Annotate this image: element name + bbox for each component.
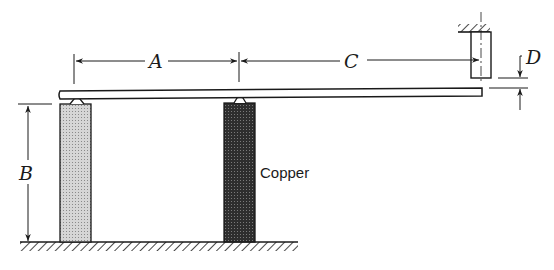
copper-post xyxy=(224,103,255,242)
label-b: B xyxy=(18,162,33,184)
stop-assembly xyxy=(458,12,491,84)
dimension-a: A xyxy=(74,50,239,84)
label-d: D xyxy=(525,46,541,68)
ground xyxy=(20,242,298,251)
diagram-canvas: A C D B Copper xyxy=(0,0,554,270)
label-a: A xyxy=(147,50,163,72)
label-copper: Copper xyxy=(260,164,309,181)
dimension-d: D xyxy=(489,46,541,110)
dimension-c: C xyxy=(241,50,479,72)
left-post xyxy=(60,104,91,242)
beam xyxy=(59,88,482,99)
dimension-b: B xyxy=(18,104,52,241)
label-c: C xyxy=(344,50,359,72)
